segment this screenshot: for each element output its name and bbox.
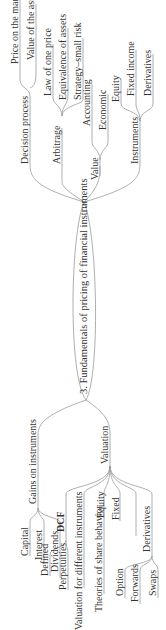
node-gains-on-instruments: Gains on instruments	[28, 419, 38, 504]
node-option: Option	[115, 568, 125, 596]
central-topic: 3. Fundamentals of pricing of financial …	[79, 179, 89, 395]
node-arbitrage: Arbitrage	[52, 126, 62, 164]
node-law-of-one-price: Law of one price	[43, 28, 53, 96]
node-equity-right: Equity	[111, 75, 121, 102]
node-derivatives-left: Derivatives	[142, 506, 152, 552]
node-economic: Economic	[98, 89, 108, 130]
node-theories-of-share-behavior: Theories of share behavior	[94, 505, 104, 612]
node-equity-left: Equity	[96, 491, 106, 518]
node-equivalence-of-assets: Equivalence of assets	[58, 14, 68, 100]
node-derivatives-right: Derivatives	[143, 50, 153, 96]
node-decision-process: Decision process	[20, 96, 30, 164]
node-valuation: Valuation	[100, 426, 110, 464]
node-value-of-the-asset: Value of the asset	[26, 0, 36, 60]
node-price-on-the-market: Price on the market	[10, 0, 20, 64]
node-dcf: DCF	[56, 511, 66, 532]
node-fixed-income: Fixed income	[126, 41, 136, 96]
node-forwards: Forwards	[130, 564, 140, 602]
node-swaps: Swaps	[148, 570, 158, 596]
node-fixed: Fixed	[111, 497, 121, 520]
node-accounting: Accounting	[82, 79, 92, 126]
node-instruments: Instruments	[130, 117, 140, 164]
node-valuation-for-different-instruments: Valuation for different instruments	[74, 492, 84, 630]
node-value: Value	[90, 157, 100, 180]
node-perpetuities: Perpetuities	[58, 543, 68, 590]
node-capital: Capital	[20, 527, 30, 556]
node-defined: Defined	[40, 544, 50, 576]
